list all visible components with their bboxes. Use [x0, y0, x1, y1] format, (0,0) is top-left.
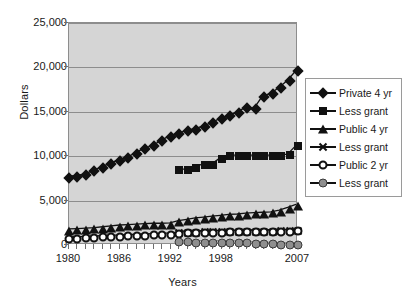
square-marker-icon	[252, 152, 260, 160]
y-axis-title: Dollars	[18, 62, 30, 142]
legend-label: Private 4 yr	[336, 87, 392, 99]
legend-item-2[interactable]: Public 4 yr	[306, 120, 401, 138]
legend-label: Public 4 yr	[336, 123, 388, 135]
x-axis-tick-mark	[76, 244, 77, 249]
square-marker-icon	[192, 164, 200, 172]
square-marker-icon	[294, 142, 302, 150]
data-point	[175, 166, 183, 174]
data-point	[235, 109, 243, 117]
y-axis-tick-label: 10,000	[7, 149, 67, 161]
triangle-marker-icon	[293, 201, 303, 210]
legend-label: Less grant	[336, 105, 388, 117]
circle-marker-icon	[294, 227, 303, 236]
x-axis-tick-mark	[136, 244, 137, 249]
legend-marker	[310, 86, 336, 100]
x-marker-icon	[318, 142, 328, 152]
legend-marker	[310, 122, 336, 136]
data-point	[209, 119, 217, 127]
legend-marker	[310, 176, 336, 190]
legend-label: Less grant	[336, 141, 388, 153]
square-marker-icon	[260, 152, 268, 160]
x-axis-tick-label: 1998	[198, 252, 244, 264]
chart-legend: Private 4 yrLess grantPublic 4 yrLess gr…	[305, 78, 402, 197]
data-point	[218, 155, 226, 163]
circle-marker-icon	[319, 161, 328, 170]
data-point	[269, 152, 277, 160]
y-axis-tick-label: 20,000	[7, 60, 67, 72]
data-point	[269, 90, 277, 98]
square-marker-icon	[235, 152, 243, 160]
x-axis-tick-label: 1986	[96, 252, 142, 264]
square-marker-icon	[226, 152, 234, 160]
data-point	[235, 152, 243, 160]
data-point	[158, 137, 166, 145]
data-point	[294, 142, 302, 150]
x-axis-tick-mark	[110, 244, 111, 249]
data-point	[192, 164, 200, 172]
legend-item-4[interactable]: Public 2 yr	[306, 156, 401, 174]
x-axis-title: Years	[68, 276, 297, 288]
x-axis-tick-mark	[102, 244, 103, 249]
data-point	[260, 152, 268, 160]
legend-item-1[interactable]: Less grant	[306, 102, 401, 120]
legend-marker	[310, 140, 336, 154]
data-point	[286, 77, 294, 85]
square-marker-icon	[184, 166, 192, 174]
chart-figure: Dollars Years 05,00010,00015,00020,00025…	[0, 0, 408, 299]
square-marker-icon	[269, 152, 277, 160]
legend-label: Public 2 yr	[336, 159, 388, 171]
square-marker-icon	[277, 152, 285, 160]
diamond-marker-icon	[292, 65, 303, 76]
data-point	[243, 152, 251, 160]
x-axis-tick-mark	[144, 244, 145, 249]
gray-circle-marker-icon	[319, 179, 328, 188]
data-point	[277, 84, 285, 92]
x-axis-tick-label: 2007	[274, 252, 320, 264]
legend-item-0[interactable]: Private 4 yr	[306, 84, 401, 102]
data-point	[209, 161, 217, 169]
x-axis-tick-label: 1980	[45, 252, 91, 264]
square-marker-icon	[286, 151, 294, 159]
x-axis-tick-mark	[153, 244, 154, 249]
square-marker-icon	[243, 152, 251, 160]
gray-circle-marker-icon	[294, 241, 303, 250]
y-axis-tick-label: 25,000	[7, 16, 67, 28]
data-point	[293, 201, 303, 210]
x-axis-tick-mark	[127, 244, 128, 249]
legend-marker	[310, 158, 336, 172]
data-point	[124, 154, 132, 162]
data-point	[294, 227, 303, 236]
diamond-marker-icon	[250, 103, 261, 114]
diamond-marker-icon	[284, 75, 295, 86]
y-axis-tick-label: 5,000	[7, 194, 67, 206]
data-point	[184, 166, 192, 174]
square-marker-icon	[201, 161, 209, 169]
y-axis-tick-label: 0	[7, 238, 67, 250]
triangle-marker-icon	[318, 125, 328, 134]
x-axis-tick-mark	[161, 244, 162, 249]
square-marker-icon	[209, 161, 217, 169]
square-marker-icon	[218, 155, 226, 163]
y-axis-tick-label: 15,000	[7, 105, 67, 117]
diamond-marker-icon	[317, 87, 328, 98]
x-axis-tick-label: 1992	[147, 252, 193, 264]
data-point	[277, 152, 285, 160]
x-axis-tick-mark	[170, 244, 171, 249]
data-point	[201, 161, 209, 169]
data-point	[294, 241, 303, 250]
legend-item-5[interactable]: Less grant	[306, 174, 401, 192]
x-axis-tick-mark	[93, 244, 94, 249]
data-point	[133, 150, 141, 158]
data-point	[286, 151, 294, 159]
x-axis-tick-mark	[119, 244, 120, 249]
x-axis-tick-mark	[85, 244, 86, 249]
x-axis-tick-mark	[68, 244, 69, 249]
square-marker-icon	[175, 166, 183, 174]
data-point	[294, 67, 302, 75]
legend-item-3[interactable]: Less grant	[306, 138, 401, 156]
plot-area	[68, 22, 297, 244]
data-point	[150, 142, 158, 150]
data-point	[252, 152, 260, 160]
legend-label: Less grant	[336, 177, 388, 189]
legend-marker	[310, 104, 336, 118]
